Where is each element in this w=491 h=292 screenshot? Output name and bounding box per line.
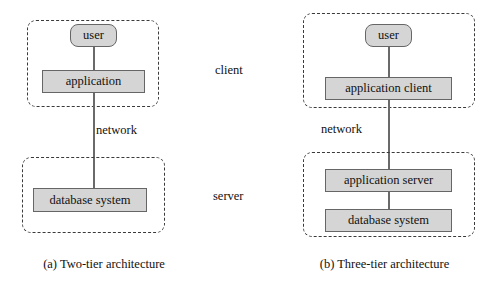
two-tier-node-database-system-label: database system	[50, 194, 131, 207]
three-tier-node-user[interactable]: user	[365, 24, 412, 47]
three-tier-link-user-to-application-client	[388, 47, 389, 77]
two-tier-link-user-to-application	[93, 47, 94, 71]
two-tier-node-application-label: application	[66, 75, 122, 88]
two-tier-node-user[interactable]: user	[70, 24, 117, 47]
two-tier-node-application[interactable]: application	[42, 70, 145, 93]
tier-label-server: server	[213, 190, 244, 203]
three-tier-caption: (b) Three-tier architecture	[278, 258, 491, 271]
three-tier-node-application-client-label: application client	[345, 82, 431, 95]
architecture-figure: user application network database system…	[0, 0, 491, 292]
three-tier-node-user-label: user	[378, 29, 399, 42]
two-tier-node-user-label: user	[83, 29, 104, 42]
three-tier-network-label: network	[321, 123, 362, 136]
three-tier-node-application-server[interactable]: application server	[325, 169, 452, 192]
tier-label-client: client	[215, 64, 243, 77]
three-tier-node-database-system[interactable]: database system	[325, 209, 452, 232]
three-tier-node-application-server-label: application server	[344, 174, 433, 187]
two-tier-network-label: network	[96, 124, 137, 137]
three-tier-node-application-client[interactable]: application client	[325, 77, 452, 100]
two-tier-caption: (a) Two-tier architecture	[0, 258, 208, 271]
two-tier-node-database-system[interactable]: database system	[33, 188, 147, 212]
three-tier-node-database-system-label: database system	[348, 214, 429, 227]
